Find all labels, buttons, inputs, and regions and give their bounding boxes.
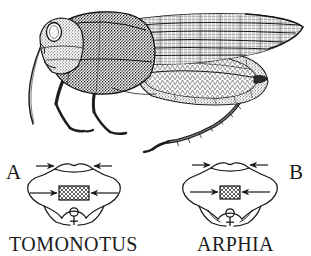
diagram-panel-b: B bbox=[156, 156, 311, 256]
illustration-plate: A bbox=[0, 0, 311, 256]
taxon-name-b: ARPHIA bbox=[158, 233, 311, 255]
head bbox=[40, 18, 84, 74]
taxon-name-a: TOMONOTUS bbox=[0, 233, 151, 255]
female-symbol-b bbox=[226, 209, 234, 226]
habitus-drawing bbox=[29, 8, 310, 152]
diagram-a-drawing bbox=[0, 156, 155, 232]
hatched-space-b bbox=[220, 186, 240, 199]
diagram-b-drawing bbox=[156, 156, 311, 232]
hatched-space-a bbox=[59, 186, 89, 200]
diagram-panel-a: A bbox=[0, 156, 155, 256]
grasshopper-habitus-figure bbox=[0, 0, 311, 158]
panel-letter-b: B bbox=[289, 162, 303, 183]
pronotum-comparison-figure: A bbox=[0, 156, 311, 256]
panel-letter-a: A bbox=[6, 162, 21, 183]
compound-eye-icon bbox=[47, 23, 62, 42]
